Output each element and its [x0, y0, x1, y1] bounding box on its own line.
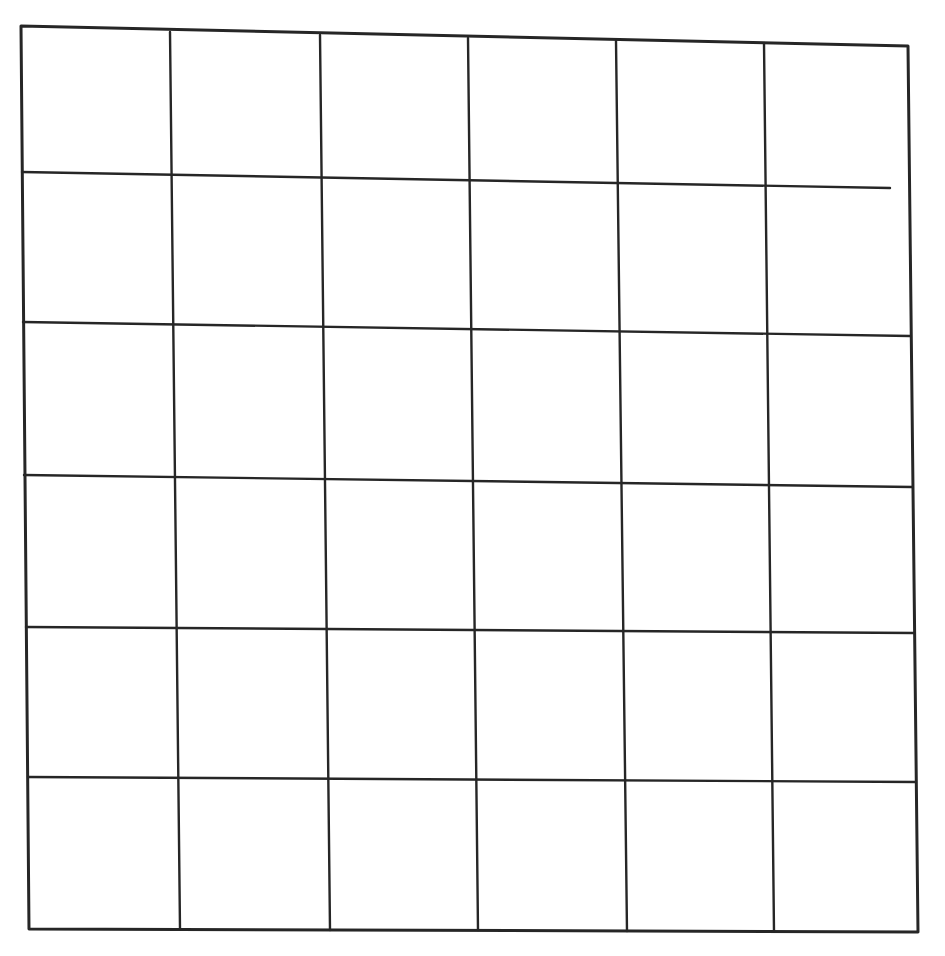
grid-horizontal-lines	[22, 172, 916, 782]
grid-vertical-line-1	[170, 32, 180, 929]
grid-horizontal-line-1	[22, 172, 890, 188]
grid-diagram	[0, 0, 945, 956]
grid-horizontal-line-2	[23, 322, 910, 336]
grid-vertical-line-2	[320, 35, 330, 930]
grid-horizontal-line-3	[24, 475, 912, 487]
grid-horizontal-line-4	[26, 627, 914, 633]
grid-horizontal-line-5	[28, 777, 916, 782]
grid-vertical-line-4	[616, 41, 627, 931]
grid-vertical-line-5	[764, 43, 774, 931]
grid-vertical-line-3	[468, 38, 478, 930]
